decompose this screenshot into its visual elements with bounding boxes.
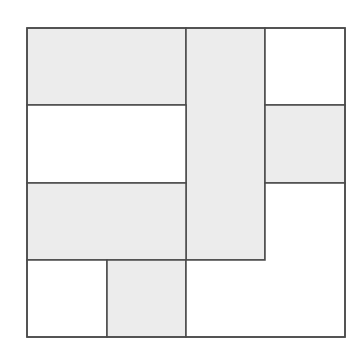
bottom-square xyxy=(107,260,186,337)
top-right-square xyxy=(265,28,345,105)
middle-left-bar xyxy=(27,105,186,183)
lower-left-bar xyxy=(27,183,186,260)
top-left-bar xyxy=(27,28,186,105)
tall-center-bar xyxy=(186,28,265,260)
bottom-left-square xyxy=(27,260,107,337)
tiling-diagram xyxy=(0,0,358,355)
right-square xyxy=(265,105,345,183)
